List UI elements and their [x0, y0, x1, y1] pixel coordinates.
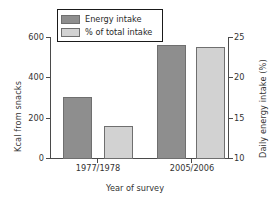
legend-swatch-percent-of-total-intake [61, 28, 80, 37]
bar-percent-of-total-intake-2005-2006 [196, 47, 225, 159]
y-axis-left-ticklabel-0: 0 [18, 153, 44, 163]
y-axis-left-line [50, 37, 51, 159]
y-axis-left-tick-200 [46, 118, 50, 119]
y-axis-right-ticklabel-20: 20 [234, 72, 244, 82]
y-axis-left-ticklabel-0-wrap: 0 [18, 153, 44, 163]
chart-legend: Energy intake % of total intake [57, 9, 163, 42]
legend-item-energy-intake: Energy intake [61, 13, 159, 25]
y-axis-right-line [228, 37, 229, 159]
chart-figure: 600 400 200 0 25 20 15 10 1977/1978 2005… [0, 0, 270, 202]
legend-swatch-energy-intake [61, 15, 80, 24]
y-axis-right-ticklabel-15-wrap: 15 [234, 113, 260, 123]
legend-label-energy-intake: Energy intake [85, 14, 141, 24]
x-axis-ticklabel-1977-1978: 1977/1978 [58, 163, 138, 173]
legend-item-percent-of-total-intake: % of total intake [61, 26, 159, 38]
y-axis-right-ticklabel-20-wrap: 20 [234, 72, 260, 82]
y-axis-right-tick-10 [229, 158, 233, 159]
y-axis-left-title: Kcal from snacks [13, 81, 23, 152]
y-axis-right-ticklabel-25-wrap: 25 [234, 32, 260, 42]
y-axis-right-ticklabel-15: 15 [234, 113, 244, 123]
y-axis-left-ticklabel-600-wrap: 600 [18, 32, 44, 42]
y-axis-right-ticklabel-10: 10 [234, 153, 244, 163]
y-axis-left-tick-0 [46, 158, 50, 159]
bar-percent-of-total-intake-1977-1978 [104, 126, 133, 159]
y-axis-right-tick-25 [229, 37, 233, 38]
bar-energy-intake-2005-2006 [157, 45, 186, 159]
y-axis-left-ticklabel-600: 600 [18, 32, 44, 42]
y-axis-right-tick-20 [229, 77, 233, 78]
y-axis-right-ticklabel-10-wrap: 10 [234, 153, 260, 163]
bar-energy-intake-1977-1978 [63, 97, 92, 159]
y-axis-right-tick-15 [229, 118, 233, 119]
legend-label-percent-of-total-intake: % of total intake [85, 27, 152, 37]
y-axis-left-tick-400 [46, 77, 50, 78]
y-axis-left-tick-600 [46, 37, 50, 38]
y-axis-right-title: Daily energy intake (%) [258, 59, 268, 158]
x-axis-title: Year of survey [0, 183, 270, 193]
x-axis-ticklabel-2005-2006: 2005/2006 [152, 163, 232, 173]
y-axis-right-ticklabel-25: 25 [234, 32, 244, 42]
